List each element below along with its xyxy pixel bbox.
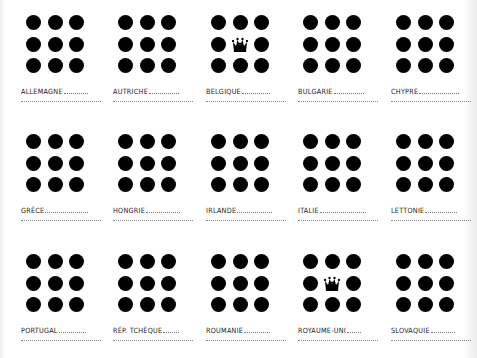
country-label: PORTUGAL [21, 326, 101, 335]
country-name: RÉP. TCHÈQUE [113, 326, 162, 335]
dot-icon [211, 134, 226, 149]
dot-icon [418, 134, 433, 149]
dot-icon [233, 15, 248, 30]
dot-icon [325, 254, 340, 269]
dot-icon [69, 37, 84, 52]
dot-icon [211, 37, 226, 52]
dot-icon [161, 15, 176, 30]
answer-line[interactable] [113, 220, 193, 221]
answer-line[interactable] [21, 220, 101, 221]
country-name: BELGIQUE [206, 87, 241, 96]
dot-grid [26, 134, 86, 194]
fill-in-leader[interactable] [419, 87, 459, 94]
fill-in-leader[interactable] [244, 326, 270, 333]
fill-in-leader[interactable] [425, 206, 457, 213]
country-cell: BULGARIE [298, 15, 378, 125]
country-cell: PORTUGAL [21, 254, 101, 358]
dot-icon [254, 156, 269, 171]
dot-icon [346, 15, 361, 30]
country-cell: ITALIE [298, 134, 378, 244]
dot-icon [69, 156, 84, 171]
dot-icon [325, 15, 340, 30]
dot-icon [48, 58, 63, 73]
dot-icon [346, 254, 361, 269]
country-cell: ALLEMAGNE [21, 15, 101, 125]
crown-icon [324, 276, 340, 291]
fill-in-leader[interactable] [347, 326, 361, 333]
fill-in-leader[interactable] [320, 206, 366, 213]
dot-icon [325, 37, 340, 52]
dot-icon [26, 177, 41, 192]
fill-in-leader[interactable] [45, 206, 88, 213]
dot-icon [254, 134, 269, 149]
dot-icon [211, 177, 226, 192]
dot-icon [26, 276, 41, 291]
dot-icon [233, 254, 248, 269]
fill-in-leader[interactable] [431, 326, 455, 333]
dot-icon [161, 58, 176, 73]
answer-line[interactable] [206, 101, 286, 102]
dot-icon [161, 276, 176, 291]
dot-icon [346, 134, 361, 149]
country-cell: SLOVAQUIE [391, 254, 471, 358]
dot-icon [140, 58, 155, 73]
country-label: RÉP. TCHÈQUE [113, 326, 193, 335]
answer-line[interactable] [206, 220, 286, 221]
country-label: ROUMANIE [206, 326, 286, 335]
answer-line[interactable] [298, 220, 378, 221]
country-name: PORTUGAL [21, 326, 58, 335]
dot-icon [211, 254, 226, 269]
country-cell: ROUMANIE [206, 254, 286, 358]
dot-icon [254, 37, 269, 52]
country-label: BELGIQUE [206, 87, 286, 96]
dot-icon [303, 297, 318, 312]
dot-icon [439, 297, 454, 312]
answer-line[interactable] [21, 101, 101, 102]
country-name: CHYPRE [391, 87, 418, 96]
answer-line[interactable] [391, 340, 471, 341]
dot-icon [346, 276, 361, 291]
dot-icon [346, 177, 361, 192]
answer-line[interactable] [113, 101, 193, 102]
dot-grid [118, 134, 178, 194]
dot-icon [418, 254, 433, 269]
fill-in-leader[interactable] [163, 326, 179, 333]
fill-in-leader[interactable] [64, 87, 88, 94]
answer-line[interactable] [391, 101, 471, 102]
answer-line[interactable] [298, 340, 378, 341]
country-label: ALLEMAGNE [21, 87, 101, 96]
dot-icon [118, 156, 133, 171]
dot-icon [48, 297, 63, 312]
answer-line[interactable] [113, 340, 193, 341]
dot-grid [118, 254, 178, 314]
dot-icon [439, 254, 454, 269]
dot-icon [439, 15, 454, 30]
page-left-shadow [0, 0, 6, 358]
answer-line[interactable] [206, 340, 286, 341]
dot-grid [211, 134, 271, 194]
fill-in-leader[interactable] [242, 87, 270, 94]
dot-icon [439, 134, 454, 149]
country-cell: LETTONIE [391, 134, 471, 244]
dot-icon [26, 58, 41, 73]
fill-in-leader[interactable] [146, 206, 180, 213]
dot-icon [396, 58, 411, 73]
fill-in-leader[interactable] [59, 326, 86, 333]
country-label: ITALIE [298, 206, 378, 215]
dot-icon [303, 276, 318, 291]
dot-grid [396, 134, 456, 194]
answer-line[interactable] [298, 101, 378, 102]
fill-in-leader[interactable] [237, 206, 272, 213]
dot-icon [303, 156, 318, 171]
dot-icon [48, 276, 63, 291]
answer-line[interactable] [21, 340, 101, 341]
dot-icon [48, 177, 63, 192]
dot-icon [396, 276, 411, 291]
answer-line[interactable] [391, 220, 471, 221]
dot-icon [439, 58, 454, 73]
dot-icon [118, 276, 133, 291]
fill-in-leader[interactable] [149, 87, 179, 94]
country-name: ROYAUME-UNI [298, 326, 346, 335]
dot-icon [418, 156, 433, 171]
fill-in-leader[interactable] [334, 87, 364, 94]
